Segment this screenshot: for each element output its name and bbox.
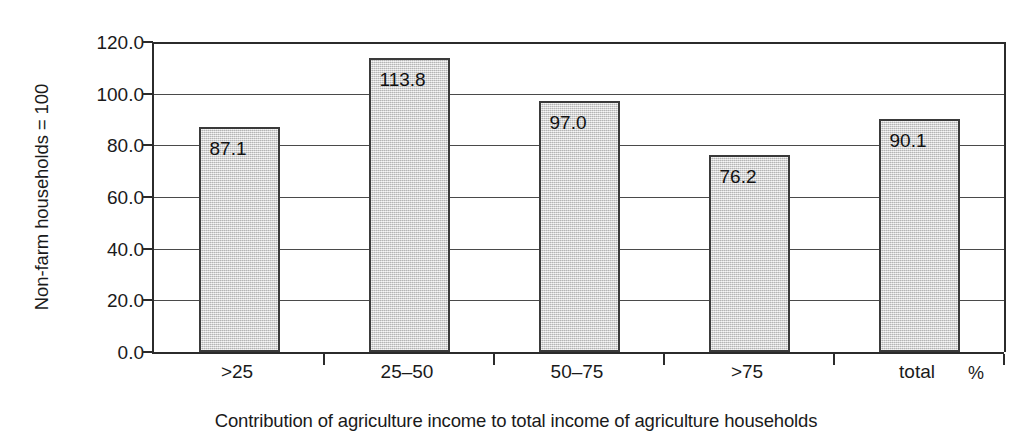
y-axis-tick-mark [142, 351, 153, 353]
bar-value-label: 97.0 [550, 113, 587, 132]
bar-chart-figure: Non-farm households = 100 0.020.040.060.… [0, 0, 1032, 440]
bar: 90.1 [879, 119, 960, 352]
x-axis-tick-labels: >2525–5050–75>75total [152, 362, 1002, 392]
y-axis-tick-label: 100.0 [48, 84, 144, 103]
bar-value-label: 87.1 [210, 139, 247, 158]
x-axis-tick-label: total [899, 362, 935, 381]
y-axis-tick-label: 0.0 [48, 343, 144, 362]
x-axis-tick-label: >25 [221, 362, 253, 381]
y-axis-tick-labels: 0.020.040.060.080.0100.0120.0 [48, 42, 144, 352]
x-axis-tick-mark [1003, 354, 1005, 365]
bar-value-label: 90.1 [890, 131, 927, 150]
x-axis-caption: Contribution of agriculture income to to… [0, 412, 1032, 431]
y-axis-tick-mark [142, 144, 153, 146]
y-axis-tick-mark [142, 93, 153, 95]
x-axis-tick-label: >75 [731, 362, 763, 381]
plot-area: 87.1113.897.076.290.1 [152, 42, 1004, 354]
y-axis-tick-mark [142, 41, 153, 43]
y-axis-tick-label: 60.0 [48, 188, 144, 207]
bar: 87.1 [199, 127, 280, 352]
bar: 76.2 [709, 155, 790, 352]
y-axis-tick-label: 40.0 [48, 239, 144, 258]
y-axis-tick-label: 120.0 [48, 33, 144, 52]
y-axis-tick-mark [142, 196, 153, 198]
x-axis-tick-label: 25–50 [381, 362, 434, 381]
x-axis-unit-label: % [968, 364, 984, 382]
bar-value-label: 76.2 [720, 167, 757, 186]
y-axis-tick-label: 20.0 [48, 291, 144, 310]
bar: 97.0 [539, 101, 620, 352]
bar: 113.8 [369, 58, 450, 352]
y-axis-tick-mark [142, 299, 153, 301]
bars-layer: 87.1113.897.076.290.1 [154, 42, 1004, 352]
bar-value-label: 113.8 [380, 70, 426, 89]
y-axis-tick-mark [142, 248, 153, 250]
y-axis-tick-label: 80.0 [48, 136, 144, 155]
plot-right-edge [1004, 42, 1006, 352]
x-axis-tick-label: 50–75 [551, 362, 604, 381]
